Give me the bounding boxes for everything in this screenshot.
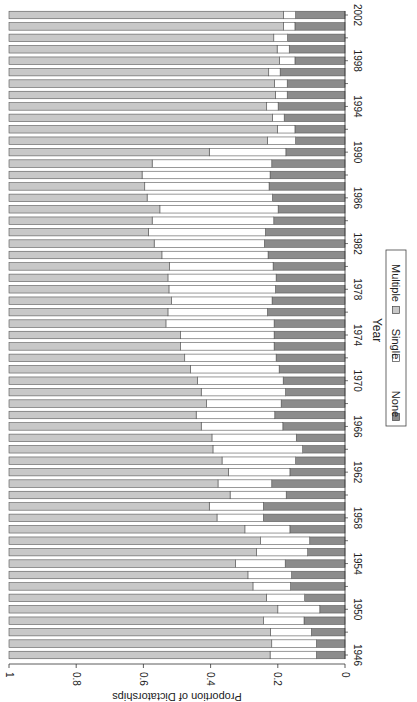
segment-none (278, 206, 345, 214)
bar-1982 (9, 240, 345, 248)
segment-multiple (9, 274, 168, 282)
segment-single (270, 651, 316, 659)
category-tick-label: 1978 (352, 278, 363, 301)
segment-single (168, 308, 267, 316)
segment-none (272, 194, 345, 202)
bar-1957 (9, 526, 345, 534)
segment-single (264, 617, 304, 625)
category-tick-label: 1950 (352, 598, 363, 621)
value-tick-label: 0.8 (71, 672, 82, 686)
category-tick-label: 1974 (352, 324, 363, 347)
bar-1981 (9, 251, 345, 259)
bar-1988 (9, 171, 345, 179)
segment-single (217, 514, 263, 522)
segment-multiple (9, 571, 248, 579)
segment-none (296, 137, 345, 145)
segment-single (147, 194, 272, 202)
segment-none (283, 423, 345, 431)
segment-multiple (9, 514, 217, 522)
bar-1962 (9, 468, 345, 476)
category-tick-label: 1946 (352, 644, 363, 667)
segment-none (264, 240, 345, 248)
bar-2000 (9, 34, 345, 42)
segment-multiple (9, 263, 170, 271)
segment-none (263, 514, 345, 522)
segment-none (270, 171, 345, 179)
segment-single (270, 628, 311, 636)
bar-1990 (9, 148, 345, 156)
segment-none (268, 251, 345, 259)
segment-single (172, 297, 272, 305)
segment-single (266, 594, 304, 602)
segment-single (277, 46, 289, 54)
segment-multiple (9, 377, 198, 385)
segment-none (308, 548, 345, 556)
bar-1961 (9, 480, 345, 488)
segment-multiple (9, 457, 222, 465)
segment-single (201, 423, 283, 431)
segment-none (316, 640, 345, 648)
segment-single (190, 366, 279, 374)
segment-multiple (9, 331, 181, 339)
segment-single (222, 457, 296, 465)
segment-multiple (9, 148, 209, 156)
bar-1979 (9, 274, 345, 282)
bar-1969 (9, 388, 345, 396)
legend-label-multiple: Multiple (390, 264, 402, 302)
segment-single (272, 114, 284, 122)
segment-multiple (9, 194, 147, 202)
bar-1949 (9, 617, 345, 625)
bar-2002 (9, 11, 345, 19)
bar-1967 (9, 411, 345, 419)
segment-multiple (9, 206, 160, 214)
category-tick-label: 1986 (352, 187, 363, 210)
bar-1974 (9, 331, 345, 339)
segment-multiple (9, 548, 257, 556)
segment-none (274, 331, 345, 339)
segment-single (257, 548, 308, 556)
segment-single (235, 560, 285, 568)
category-tick-label: 1970 (352, 370, 363, 393)
bar-1992 (9, 126, 345, 134)
segment-multiple (9, 388, 201, 396)
bar-1986 (9, 194, 345, 202)
bar-1951 (9, 594, 345, 602)
segment-multiple (9, 640, 272, 648)
segment-single (275, 91, 287, 99)
segment-single (261, 537, 310, 545)
bar-1998 (9, 57, 345, 65)
segment-single (196, 411, 275, 419)
segment-multiple (9, 480, 218, 488)
category-tick-label: 1958 (352, 507, 363, 530)
segment-single (279, 57, 294, 65)
bar-1970 (9, 377, 345, 385)
segment-none (295, 126, 345, 134)
category-tick-label: 1954 (352, 552, 363, 575)
plot-group: 00.20.40.60.8119461950195419581962196619… (4, 4, 363, 686)
segment-multiple (9, 114, 272, 122)
segment-none (274, 320, 345, 328)
segment-none (276, 354, 345, 362)
segment-none (316, 651, 345, 659)
bar-1960 (9, 491, 345, 499)
segment-multiple (9, 137, 267, 145)
segment-multiple (9, 606, 278, 614)
segment-none (279, 366, 345, 374)
bar-1995 (9, 91, 345, 99)
segment-none (267, 308, 345, 316)
value-tick-label: 0.2 (272, 672, 283, 686)
bar-1993 (9, 114, 345, 122)
segment-none (281, 400, 345, 408)
bar-1985 (9, 206, 345, 214)
segment-none (311, 628, 345, 636)
legend-label-single: Single (390, 329, 402, 360)
segment-single (145, 183, 269, 191)
bar-1987 (9, 183, 345, 191)
segment-single (148, 228, 265, 236)
bar-1980 (9, 263, 345, 271)
segment-multiple (9, 411, 196, 419)
bar-1948 (9, 628, 345, 636)
segment-none (286, 491, 345, 499)
segment-multiple (9, 286, 169, 294)
segment-single (284, 23, 295, 31)
